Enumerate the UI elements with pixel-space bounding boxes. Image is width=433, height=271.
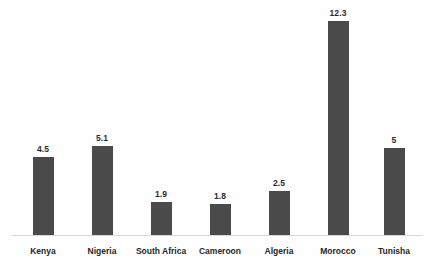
bar-morocco[interactable] [328, 21, 349, 235]
bar-value-label: 4.5 [14, 144, 72, 154]
bar-value-label: 2.5 [250, 178, 308, 188]
bar-value-label: 1.9 [132, 189, 190, 199]
bar-nigeria[interactable] [92, 146, 113, 235]
plot-area: 4.5 5.1 1.9 1.8 2.5 12.3 [0, 0, 433, 236]
bar-value-label: 5 [365, 135, 423, 145]
category-label-cameroon: Cameroon [191, 246, 249, 257]
bar-chart: 4.5 5.1 1.9 1.8 2.5 12.3 [0, 0, 433, 271]
bar-group-nigeria: 5.1 [73, 0, 131, 236]
bar-group-south-africa: 1.9 [132, 0, 190, 236]
bar-value-label: 12.3 [309, 8, 367, 18]
x-axis-category-labels: Kenya Nigeria South Africa Cameroon Alge… [0, 240, 433, 264]
category-label-south-africa: South Africa [132, 246, 190, 257]
bar-south-africa[interactable] [151, 202, 172, 235]
bar-kenya[interactable] [33, 157, 54, 235]
bar-algeria[interactable] [269, 191, 290, 235]
bar-group-morocco: 12.3 [309, 0, 367, 236]
category-label-algeria: Algeria [250, 246, 308, 257]
bar-cameroon[interactable] [210, 204, 231, 235]
bar-value-label: 5.1 [73, 133, 131, 143]
x-axis-line [12, 235, 423, 236]
bar-tunisha[interactable] [384, 148, 405, 235]
category-label-morocco: Morocco [309, 246, 367, 257]
bar-group-algeria: 2.5 [250, 0, 308, 236]
bar-group-kenya: 4.5 [14, 0, 72, 236]
category-label-nigeria: Nigeria [73, 246, 131, 257]
bar-value-label: 1.8 [191, 191, 249, 201]
bar-group-tunisha: 5 [365, 0, 423, 236]
category-label-kenya: Kenya [14, 246, 72, 257]
bars-layer: 4.5 5.1 1.9 1.8 2.5 12.3 [0, 0, 433, 236]
bar-group-cameroon: 1.8 [191, 0, 249, 236]
category-label-tunisha: Tunisha [365, 246, 423, 257]
